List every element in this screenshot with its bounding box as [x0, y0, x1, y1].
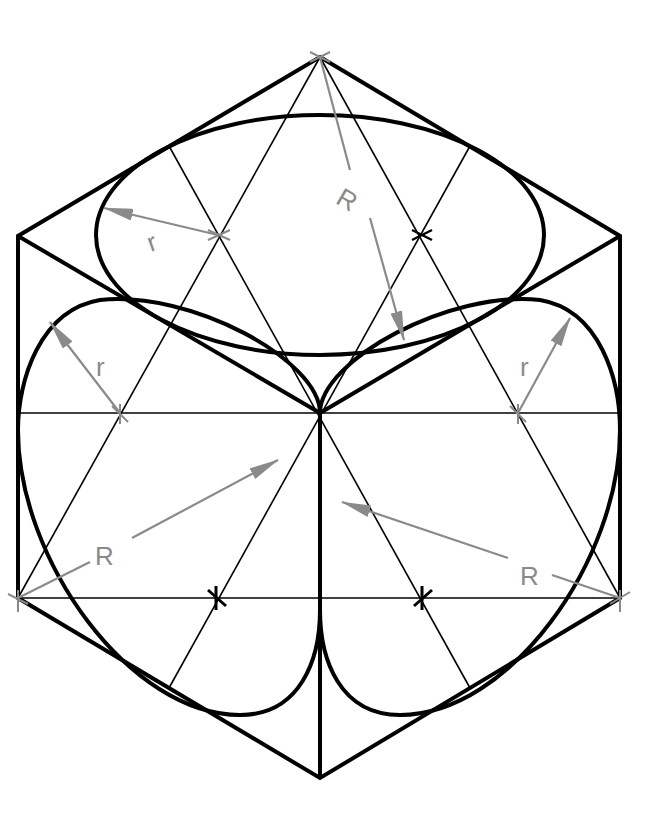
label-right-r: r	[520, 352, 529, 382]
left-face-ellipse	[18, 299, 320, 715]
center-mark-left	[112, 404, 128, 424]
label-right-R: R	[520, 561, 539, 591]
cube-outline	[18, 57, 620, 778]
right-face-ellipse	[320, 299, 620, 715]
isometric-cube-diagram: r R r r R R	[0, 0, 672, 831]
label-top-r: r	[143, 226, 162, 257]
label-left-r: r	[96, 352, 105, 382]
center-mark-right	[510, 404, 526, 424]
label-left-R: R	[95, 541, 114, 571]
label-top-R: R	[332, 182, 363, 217]
